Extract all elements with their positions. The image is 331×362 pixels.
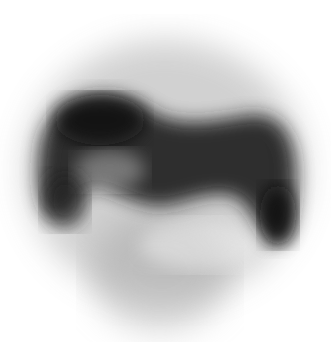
scintigraphy-image	[0, 0, 331, 362]
